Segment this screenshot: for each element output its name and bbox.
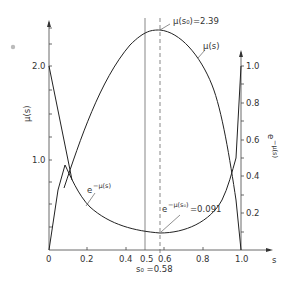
peak-leader	[160, 24, 170, 30]
right-axis-arrow-icon	[239, 50, 243, 57]
mu-curve-main	[64, 30, 241, 250]
left-tick-2: 2.0	[32, 61, 46, 71]
right-axis-label-exp: −μ(s)	[271, 140, 279, 158]
chart-canvas: μ(s₀)=2.39 μ(s) e −μ(s) e −μ(s₀) =0.091 …	[0, 0, 291, 286]
exp-curve-label-base: e	[87, 185, 92, 195]
right-tick-0.6: 0.6	[246, 135, 260, 145]
x-tick-0.4: 0.4	[119, 254, 133, 264]
x-tick-0.5: 0.5	[140, 254, 154, 264]
right-axis-label: e −μ(s)	[266, 134, 279, 158]
x-tick-0.8: 0.8	[196, 254, 210, 264]
min-annotation-value: =0.091	[190, 204, 221, 214]
right-axis-label-base: e	[266, 134, 276, 139]
min-annotation-base: e	[162, 204, 167, 214]
smudge-mark	[11, 45, 15, 49]
x-axis-label: s	[272, 255, 277, 265]
mu-curve	[49, 66, 72, 180]
x-tick-0: 0	[46, 254, 51, 264]
left-tick-1: 1.0	[32, 155, 46, 165]
mu-leader	[198, 50, 205, 58]
left-axis-label: μ(s)	[22, 106, 32, 122]
exp-curve-label-exp: −μ(s)	[93, 182, 111, 190]
x-tick-1.0: 1.0	[235, 254, 249, 264]
min-annotation-exp: −μ(s₀)	[168, 201, 189, 209]
min-leader	[161, 215, 180, 232]
right-tick-0.2: 0.2	[246, 208, 260, 218]
right-tick-0.8: 0.8	[246, 98, 260, 108]
x-tick-0.2: 0.2	[80, 254, 94, 264]
left-ticks	[49, 28, 52, 227]
right-tick-0.4: 0.4	[246, 171, 260, 181]
right-ticks	[241, 66, 244, 232]
x-tick-0.6: 0.6	[158, 254, 172, 264]
mu-curve-label: μ(s)	[203, 41, 219, 51]
x-axis-arrow-icon	[266, 248, 273, 252]
right-tick-1.0: 1.0	[246, 61, 260, 71]
left-axis-arrow-icon	[47, 20, 51, 27]
peak-annotation: μ(s₀)=2.39	[173, 16, 219, 26]
s0-label: s₀ =0.58	[136, 264, 173, 274]
